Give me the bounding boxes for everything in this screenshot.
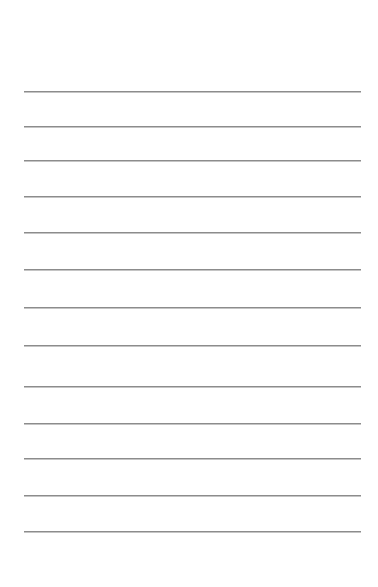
ruled-line [24,495,361,497]
ruled-line [24,196,361,198]
ruled-line [24,458,361,460]
ruled-line [24,232,361,234]
lined-paper-page [0,0,378,587]
ruled-line [24,160,361,162]
ruled-line [24,91,361,93]
ruled-line [24,345,361,347]
ruled-line [24,531,361,533]
ruled-line [24,269,361,271]
ruled-line [24,423,361,425]
ruled-line [24,307,361,309]
ruled-line [24,386,361,388]
ruled-line [24,126,361,128]
